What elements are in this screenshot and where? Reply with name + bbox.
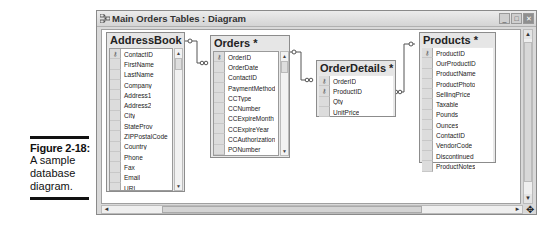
minimize-button[interactable]: _	[499, 13, 510, 24]
caption-line-3: diagram.	[30, 180, 90, 193]
key-icon: ⚷	[214, 52, 225, 62]
horizontal-scrollbar[interactable]: ◄ ►	[101, 205, 523, 214]
field-row[interactable]: ProductPhoto	[422, 79, 493, 89]
field-row[interactable]: URL	[110, 183, 172, 191]
field-row[interactable]: CCAuthorization	[214, 134, 278, 144]
field-row[interactable]: ⚷ContactID	[110, 49, 172, 59]
caption-line-1: A sample	[30, 154, 90, 167]
scroll-down-icon[interactable]: ▼	[281, 147, 288, 155]
scroll-down-icon[interactable]: ▼	[524, 194, 532, 203]
field-list: ⚷OrderID OrderDate ContactID PaymentMeth…	[213, 51, 279, 156]
field-row[interactable]: Taxable	[422, 99, 493, 109]
field-row[interactable]: Fax	[110, 162, 172, 172]
field-row[interactable]: ⚷OrderID	[319, 76, 393, 86]
field-row[interactable]: PaymentMethod	[214, 83, 278, 93]
scroll-left-icon[interactable]: ◄	[102, 206, 111, 213]
field-row[interactable]: ProductNotes	[422, 161, 493, 171]
row-selector	[214, 124, 225, 134]
row-selector	[422, 120, 433, 130]
row-selector	[214, 155, 225, 156]
field-row[interactable]: Ounces	[422, 120, 493, 130]
caption-top-rule	[30, 136, 89, 139]
vertical-scroll-thumb[interactable]	[524, 42, 532, 182]
table-title: OrderDetails *	[317, 61, 395, 75]
horizontal-scroll-thumb[interactable]	[162, 206, 422, 213]
field-row[interactable]: Address2	[110, 100, 172, 110]
key-icon: ⚷	[110, 49, 121, 59]
field-row[interactable]: CCExpireYear	[214, 124, 278, 134]
field-row[interactable]: Address1	[110, 90, 172, 100]
field-row[interactable]: Company	[110, 80, 172, 90]
field-row[interactable]: SellingPrice	[422, 89, 493, 99]
scroll-thumb[interactable]	[175, 58, 182, 70]
row-selector	[214, 83, 225, 93]
field-row[interactable]: Country	[110, 142, 172, 152]
field-row[interactable]: ZIPPostalCode	[110, 131, 172, 141]
row-selector	[422, 58, 433, 68]
field-row[interactable]: Qty	[319, 97, 393, 107]
field-row[interactable]: ContactID	[214, 73, 278, 83]
row-selector	[110, 131, 121, 141]
row-selector	[110, 111, 121, 121]
close-button[interactable]: ✕	[523, 13, 534, 24]
field-row[interactable]: VendorCode	[422, 141, 493, 151]
row-selector	[110, 173, 121, 183]
field-row[interactable]: ⚷OrderID	[214, 52, 278, 62]
table-products[interactable]: Products * ⚷ProductID OurProductID Produ…	[419, 32, 496, 163]
diagram-icon	[100, 14, 110, 23]
field-row[interactable]: ⚷ProductID	[319, 86, 393, 96]
caption-bottom-rule	[30, 197, 89, 200]
field-row[interactable]: StateProv	[110, 121, 172, 131]
field-row[interactable]: CCNumber	[214, 103, 278, 113]
table-scrollbar[interactable]: ▲ ▼	[280, 51, 289, 156]
row-selector	[110, 162, 121, 172]
row-selector	[214, 145, 225, 155]
scroll-up-icon[interactable]: ▲	[175, 49, 182, 57]
row-selector	[110, 59, 121, 69]
row-selector	[319, 107, 330, 117]
field-row[interactable]: UnitPrice	[319, 107, 393, 117]
key-icon: ⚷	[319, 76, 330, 86]
row-selector	[422, 89, 433, 99]
row-selector	[110, 70, 121, 80]
scroll-down-icon[interactable]: ▼	[175, 182, 182, 190]
table-scrollbar[interactable]: ▲ ▼	[174, 48, 183, 191]
table-title: Products *	[420, 33, 495, 47]
maximize-button[interactable]: □	[511, 13, 522, 24]
row-selector	[214, 73, 225, 83]
field-row[interactable]: ⚷ProductID	[422, 48, 493, 58]
row-selector	[214, 114, 225, 124]
table-title: AddressBook *	[107, 33, 184, 47]
field-row[interactable]: CCExpireMonth	[214, 114, 278, 124]
table-orders[interactable]: Orders * ⚷OrderID OrderDate ContactID Pa…	[210, 35, 290, 158]
field-row[interactable]: PONumber	[214, 145, 278, 155]
row-selector	[110, 142, 121, 152]
row-selector	[319, 97, 330, 107]
row-selector	[214, 134, 225, 144]
field-row[interactable]: OrderDate	[214, 62, 278, 72]
scroll-up-icon[interactable]: ▲	[281, 52, 288, 60]
field-row[interactable]: ProductName	[422, 69, 493, 79]
field-row[interactable]: Phone	[110, 152, 172, 162]
field-row[interactable]: ContactID	[422, 130, 493, 140]
scroll-right-icon[interactable]: ►	[513, 206, 522, 213]
vertical-scrollbar[interactable]: ▲ ▼	[523, 29, 533, 204]
table-addressbook[interactable]: AddressBook * ⚷ContactID FirstName LastN…	[106, 32, 185, 192]
field-row[interactable]: CCType	[214, 93, 278, 103]
field-row[interactable]: Email	[110, 173, 172, 183]
field-row[interactable]: Paid	[214, 155, 278, 156]
figure-label: Figure 2-18:	[30, 142, 90, 154]
scroll-thumb[interactable]	[281, 61, 288, 73]
field-row[interactable]: Pounds	[422, 110, 493, 120]
field-row[interactable]: City	[110, 111, 172, 121]
scroll-up-icon[interactable]: ▲	[524, 30, 532, 39]
field-list: ⚷ProductID OurProductID ProductName Prod…	[422, 48, 493, 162]
title-bar[interactable]: Main Orders Tables : Diagram _ □ ✕	[97, 11, 536, 27]
field-row[interactable]: FirstName	[110, 59, 172, 69]
field-row[interactable]: OurProductID	[422, 58, 493, 68]
diagram-canvas[interactable]: AddressBook * ⚷ContactID FirstName LastN…	[101, 29, 521, 204]
field-row[interactable]: Discontinued	[422, 151, 493, 161]
table-orderdetails[interactable]: OrderDetails * ⚷OrderID ⚷ProductID Qty U…	[316, 60, 396, 117]
pan-move-icon[interactable]: ✥	[524, 204, 535, 215]
field-row[interactable]: LastName	[110, 70, 172, 80]
